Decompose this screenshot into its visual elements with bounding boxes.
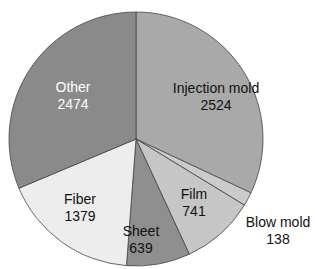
slice-label-sheet: Sheet639 xyxy=(123,223,160,257)
slice-label-fiber: Fiber1379 xyxy=(64,191,96,225)
slice-label-name: Other xyxy=(55,79,90,96)
slice-label-other: Other2474 xyxy=(55,79,90,113)
slice-label-value: 741 xyxy=(181,203,207,220)
slice-label-name: Blow mold xyxy=(246,214,311,231)
slice-label-value: 138 xyxy=(246,231,311,248)
slice-label-film: Film741 xyxy=(181,186,207,220)
slice-label-name: Sheet xyxy=(123,223,160,240)
slice-label-blow-mold: Blow mold138 xyxy=(246,214,311,248)
slice-label-value: 2524 xyxy=(173,97,259,114)
slice-label-name: Injection mold xyxy=(173,80,259,97)
slice-label-name: Film xyxy=(181,186,207,203)
slice-label-name: Fiber xyxy=(64,191,96,208)
slice-label-value: 2474 xyxy=(55,96,90,113)
slice-label-injection-mold: Injection mold2524 xyxy=(173,80,259,114)
slice-label-value: 1379 xyxy=(64,208,96,225)
slice-label-value: 639 xyxy=(123,240,160,257)
